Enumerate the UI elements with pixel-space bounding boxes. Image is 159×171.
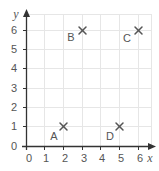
x-tick-label: 3	[81, 152, 87, 164]
x-tick-label: 5	[118, 152, 124, 164]
point-label-d: D	[106, 130, 114, 142]
point-label-c: C	[123, 32, 131, 44]
x-tick-label: 6	[137, 152, 143, 164]
y-tick-label: 2	[11, 101, 17, 113]
y-axis-label: y	[12, 7, 19, 21]
x-tick-label: 2	[62, 152, 68, 164]
coordinate-grid-chart: 0 1 2 3 4 5 6 x 0 1 2 3 4 5 6 y A B C D	[0, 0, 159, 171]
y-axis-arrow-icon	[23, 9, 30, 17]
x-tick-label: 1	[43, 152, 49, 164]
y-tick-label: 6	[11, 24, 17, 36]
y-tick-label: 5	[11, 43, 17, 55]
y-tick-label: 4	[11, 62, 17, 74]
point-label-a: A	[50, 130, 58, 142]
x-tick-label: 0	[26, 152, 32, 164]
x-tick-label: 4	[99, 152, 105, 164]
y-tick-label: 0	[11, 140, 17, 152]
x-axis-label: x	[146, 151, 153, 165]
grid-lines	[26, 14, 152, 146]
y-tick-labels: 0 1 2 3 4 5 6	[11, 24, 17, 152]
point-label-b: B	[67, 31, 74, 43]
x-tick-labels: 0 1 2 3 4 5 6	[26, 152, 143, 164]
y-tick-label: 3	[11, 82, 17, 94]
x-axis	[22, 143, 156, 150]
y-tick-label: 1	[11, 120, 17, 132]
